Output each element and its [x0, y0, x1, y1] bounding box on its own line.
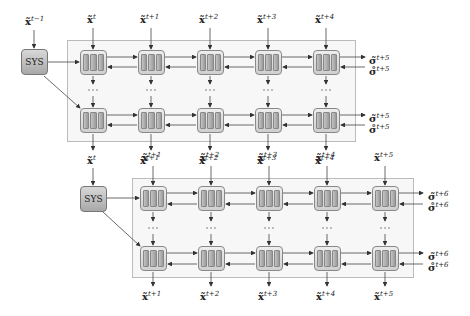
cell-b2-top-5	[372, 186, 399, 211]
sigma-ring-label: σ̊t+5	[369, 122, 390, 135]
cell-b2-top-3	[256, 186, 283, 211]
output-label: x̃t+2	[200, 289, 219, 302]
sigma-ring-label: σ̊t+6	[428, 200, 449, 213]
sys-label: SYS	[84, 194, 102, 204]
cell-b2-bot-3	[256, 246, 283, 271]
input-label: x̃t+4	[316, 150, 335, 163]
input-label: x̃t+2	[200, 150, 219, 163]
cell-b1-bot-3	[197, 108, 224, 133]
cell-b2-bot-4	[314, 246, 341, 271]
sigma-ring-label: σ̊t+6	[428, 260, 449, 273]
cell-b2-top-2	[198, 186, 225, 211]
input-label: x̃t+3	[258, 150, 277, 163]
input-label: x̃t+5	[374, 150, 393, 163]
sys-input-label: x̃t−1	[25, 14, 44, 27]
cell-b1-top-4	[255, 50, 282, 75]
cell-b1-bot-5	[313, 108, 340, 133]
sigma-ring-label: σ̊t+5	[369, 64, 390, 77]
sys-block-1: SYS	[21, 49, 48, 75]
cell-b1-bot-4	[255, 108, 282, 133]
cell-b1-top-1	[80, 50, 107, 75]
cell-b2-top-1	[140, 186, 167, 211]
input-label: x̃t+2	[199, 12, 218, 25]
cell-b1-top-2	[138, 50, 165, 75]
cell-b2-bot-5	[372, 246, 399, 271]
output-label: x̃t+3	[258, 289, 277, 302]
cell-b2-bot-2	[198, 246, 225, 271]
input-label: x̃t	[87, 12, 96, 25]
connection-arrows	[0, 0, 470, 316]
cell-b1-top-5	[313, 50, 340, 75]
ellipsis-dots	[88, 89, 389, 228]
output-label: x̃t+1	[142, 289, 161, 302]
output-label: x̃t+5	[374, 289, 393, 302]
cell-b1-bot-2	[138, 108, 165, 133]
input-label: x̃t+1	[140, 12, 159, 25]
output-label: x̃t+4	[316, 289, 335, 302]
input-label: x̃t+1	[142, 150, 161, 163]
cell-b2-top-4	[314, 186, 341, 211]
output-label: x̃t	[87, 153, 96, 166]
cell-b1-bot-1	[80, 108, 107, 133]
cell-b2-bot-1	[140, 246, 167, 271]
input-label: x̃t+3	[257, 12, 276, 25]
input-label: x̃t+4	[315, 12, 334, 25]
cell-b1-top-3	[197, 50, 224, 75]
sys-label: SYS	[25, 57, 43, 67]
sys-block-2: SYS	[80, 186, 107, 212]
